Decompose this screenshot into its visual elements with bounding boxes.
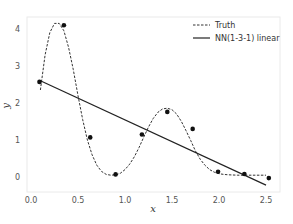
data-point [216,170,221,175]
x-axis-ticks: 0.00.51.01.52.02.5 [25,196,273,205]
data-point [165,110,170,115]
y-tick-label: 0 [15,173,20,182]
y-tick-label: 1 [15,136,20,145]
x-tick-label: 2.0 [213,196,226,205]
data-point [62,23,67,28]
y-axis-ticks: 01234 [15,25,20,182]
data-point [190,127,195,132]
x-tick-label: 1.5 [166,196,179,205]
legend-nn-label: NN(1-3-1) linear [215,34,280,43]
data-point [113,172,118,177]
y-axis-label: y [0,103,11,110]
data-point [140,132,145,137]
plot-area [27,17,280,192]
y-tick-label: 4 [15,25,20,34]
data-point [242,172,247,177]
chart: 01234 0.00.51.01.52.02.5 x y Truth NN(1-… [0,0,293,224]
x-tick-label: 2.5 [260,196,273,205]
x-tick-label: 0.0 [25,196,38,205]
legend-truth-label: Truth [214,21,235,30]
data-point [88,135,93,140]
data-point [267,176,272,181]
y-tick-label: 2 [15,99,20,108]
x-tick-label: 0.5 [72,196,85,205]
y-tick-label: 3 [15,62,20,71]
data-point [37,80,42,85]
x-axis-label: x [150,203,156,214]
x-tick-label: 1.0 [119,196,132,205]
